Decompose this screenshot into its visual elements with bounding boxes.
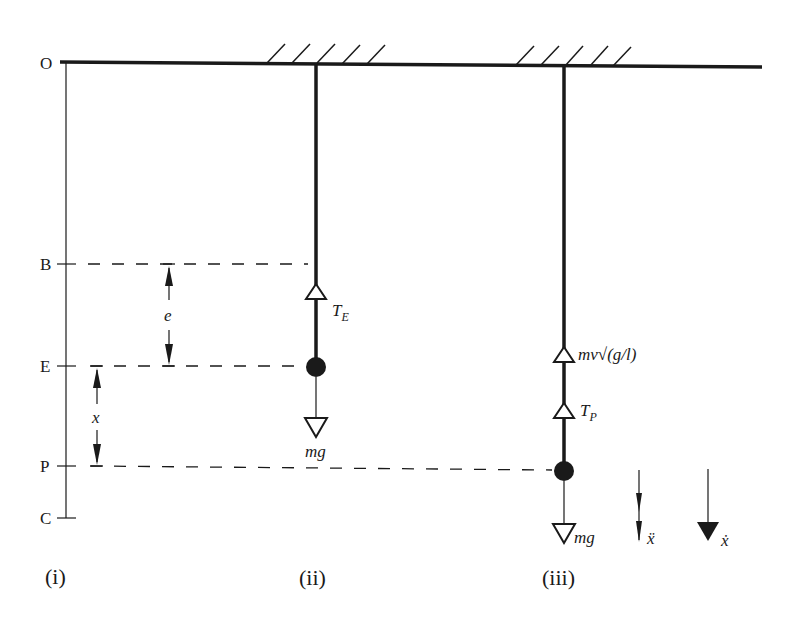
guide-P (90, 466, 552, 470)
velocity-label: ẋ (720, 531, 729, 550)
particle-bob-ii (306, 357, 326, 377)
particle-bob-iii (554, 461, 574, 481)
arrow-up-icon (93, 368, 101, 388)
tension-TP-label: TP (580, 401, 597, 424)
ceiling-hatch-iii (516, 46, 631, 66)
caption-ii: (ii) (299, 565, 326, 590)
tension-arrow-icon (554, 403, 574, 418)
point-B-label: B (40, 255, 51, 274)
velocity-indicator: ẋ (697, 469, 729, 550)
panel-ii-equilibrium: TE mg (305, 63, 349, 461)
weight-mg-label-ii: mg (305, 442, 326, 461)
displacement-x-label: x (91, 408, 100, 427)
caption-i: (i) (45, 564, 66, 589)
dimension-e: e (163, 264, 175, 366)
ceiling-hatch-ii (267, 44, 385, 64)
arrow-up-icon (165, 266, 173, 286)
arrow-down-icon (165, 344, 173, 365)
point-C-label: C (40, 509, 51, 528)
point-P-label: P (40, 457, 49, 476)
dimension-x: x (91, 366, 103, 466)
resistance-label: mv√(g/l) (578, 345, 637, 364)
arrow-down-icon (636, 493, 642, 512)
arrow-down-icon (697, 522, 719, 541)
acceleration-indicator: ẍ (636, 470, 655, 548)
extension-e-label: e (164, 306, 172, 325)
tension-arrow-icon (306, 284, 326, 299)
caption-iii: (iii) (542, 565, 575, 590)
point-E-label: E (40, 357, 50, 376)
panel-iii-motion: mv√(g/l) TP mg (553, 66, 637, 547)
ceiling-line (60, 62, 762, 67)
acceleration-label: ẍ (646, 529, 655, 548)
tension-TE-label: TE (332, 301, 349, 324)
elastic-string-diagram: O B E P C e x TE mg (0, 0, 797, 628)
weight-mg-label-iii: mg (574, 528, 595, 547)
weight-arrow-icon (553, 524, 575, 543)
point-O-label: O (40, 54, 52, 73)
resistance-arrow-icon (554, 347, 574, 362)
arrow-down-icon (93, 444, 101, 465)
arrow-down-icon (636, 521, 642, 542)
weight-arrow-icon (305, 418, 327, 437)
